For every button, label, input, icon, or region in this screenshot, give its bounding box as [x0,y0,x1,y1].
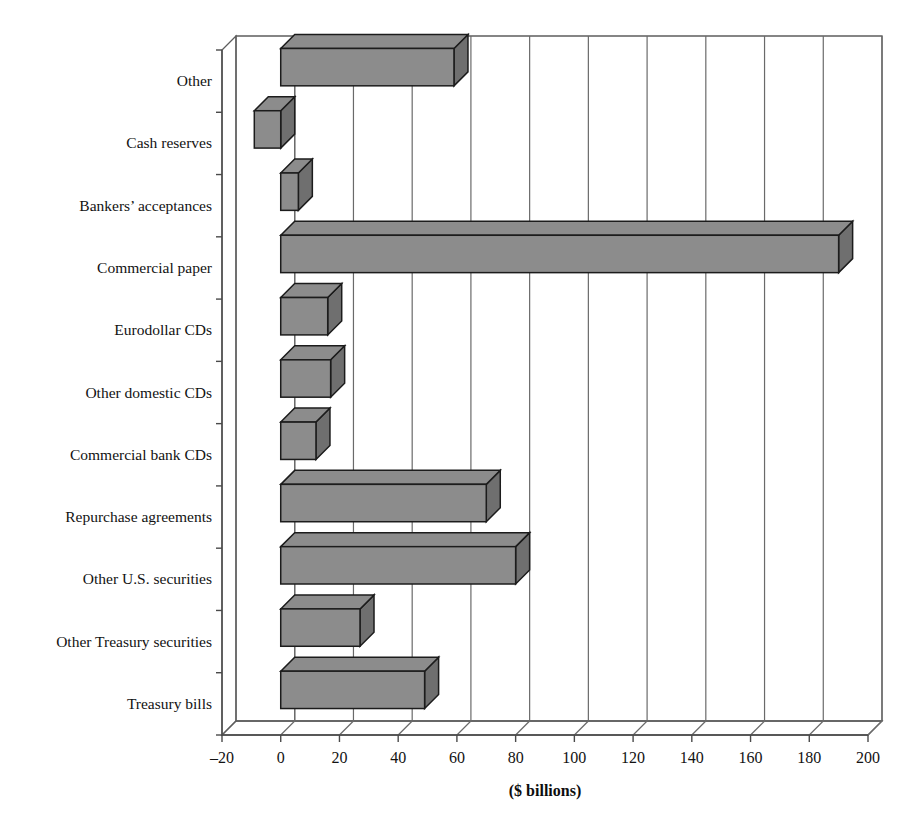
bar-front-face [281,48,454,85]
bar-front-face [254,111,280,148]
gridline-floor [339,721,353,735]
x-axis: –20020406080100120140160180200 [209,735,880,766]
chart-canvas: OtherCash reservesBankers’ acceptancesCo… [0,0,921,835]
bar-10 [281,595,374,646]
bar-top-face [281,657,439,671]
bar-top-face [281,221,853,235]
bar-front-face [281,671,425,708]
y-axis-labels: OtherCash reservesBankers’ acceptancesCo… [56,72,213,712]
category-label: Other [177,72,213,89]
category-label: Other Treasury securities [56,633,212,650]
x-tick-label: 80 [508,749,524,766]
category-label: Cash reserves [126,134,212,151]
bars-group [254,34,852,708]
bar-4 [281,221,853,272]
gridline-floor [281,721,295,735]
bar-front-face [281,484,487,521]
category-label: Bankers’ acceptances [79,197,212,214]
bar-front-face [281,235,839,272]
bar-11 [281,657,439,708]
x-tick-label: 180 [797,749,821,766]
bar-top-face [281,34,468,48]
bar-chart: OtherCash reservesBankers’ acceptancesCo… [0,0,921,835]
bar-8 [281,470,501,521]
bar-1 [281,34,468,85]
bar-top-face [281,470,501,484]
gridline-floor [751,721,765,735]
gridline-floor [633,721,647,735]
x-tick-label: 140 [680,749,704,766]
x-tick-label: 120 [621,749,645,766]
category-label: Eurodollar CDs [114,321,212,338]
bar-front-face [281,547,516,584]
bar-6 [281,346,345,397]
bar-3 [281,159,313,210]
gridline-floor [457,721,471,735]
gridline-floor [516,721,530,735]
x-tick-label: 200 [856,749,880,766]
plot-floor [222,721,882,735]
category-label: Other U.S. securities [83,570,212,587]
bar-5 [281,284,342,335]
bar-front-face [281,173,299,210]
bar-top-face [281,595,374,609]
category-label: Commercial paper [97,259,213,276]
bar-9 [281,533,530,584]
x-tick-label: 60 [449,749,465,766]
x-tick-label: 0 [277,749,285,766]
bar-2 [254,97,294,148]
category-label: Commercial bank CDs [70,446,212,463]
x-axis-title: ($ billions) [509,782,581,800]
bar-front-face [281,360,331,397]
x-tick-label: 20 [331,749,347,766]
gridline-floor [692,721,706,735]
bar-front-face [281,422,316,459]
x-tick-label: 160 [739,749,763,766]
bar-front-face [281,298,328,335]
gridline-floor [574,721,588,735]
gridline-floor [809,721,823,735]
category-label: Repurchase agreements [65,508,212,525]
plot-left-wall [222,36,236,735]
gridline-floor [398,721,412,735]
bar-7 [281,408,330,459]
gridline-floor [868,721,882,735]
x-tick-label: 40 [390,749,406,766]
bar-top-face [281,533,530,547]
y-axis-ticks [216,50,222,735]
bar-front-face [281,609,360,646]
x-tick-label: 100 [562,749,586,766]
category-label: Other domestic CDs [85,384,212,401]
category-label: Treasury bills [127,695,212,712]
x-tick-label: –20 [209,749,234,766]
